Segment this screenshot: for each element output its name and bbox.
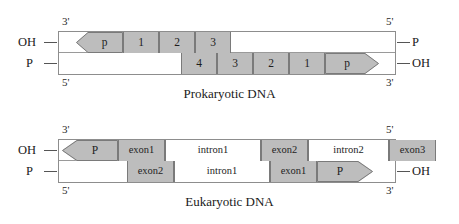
segment-exon-exon2: exon2 <box>261 140 308 161</box>
segment-label: p <box>102 37 108 49</box>
segment-label: 1 <box>138 37 144 49</box>
prokaryotic-left-top-tick <box>44 42 57 43</box>
eukaryotic-left-bottom-tick <box>44 171 57 172</box>
prokaryotic-bottom-strand: 4321p <box>59 53 395 74</box>
segment-gene-1: 1 <box>289 53 325 74</box>
segment-label: 2 <box>174 37 180 49</box>
segment-label: 3 <box>232 58 238 70</box>
segment-exon-exon3: exon3 <box>389 140 436 161</box>
segment-exon-exon1: exon1 <box>270 161 317 182</box>
eukaryotic-left-top-terminal: OH <box>18 143 36 158</box>
segment-label: exon3 <box>400 145 426 156</box>
segment-label: intron1 <box>198 145 228 156</box>
eukaryotic-duplex: Pexon1intron1exon2intron2exon3 exon2intr… <box>58 139 396 183</box>
segment-gene-2: 2 <box>159 32 195 53</box>
prokaryotic-top-right-polarity: 5' <box>386 15 393 27</box>
eukaryotic-dna-figure: 3' 5' 5' 3' OH P P OH Pexon1intron1exon2… <box>0 110 459 222</box>
prokaryotic-top-strand: p123 <box>59 32 395 53</box>
segment-exon-exon1: exon1 <box>118 140 165 161</box>
segment-label: 4 <box>196 58 202 70</box>
segment-gene-4: 4 <box>181 53 217 74</box>
segment-label: exon2 <box>272 145 298 156</box>
segment-label: intron1 <box>207 166 237 177</box>
eukaryotic-top-strand: Pexon1intron1exon2intron2exon3 <box>59 140 395 161</box>
eukaryotic-bottom-strand: exon2intron1exon1P <box>59 161 395 182</box>
segment-label: 1 <box>304 58 310 70</box>
eukaryotic-right-bottom-tick <box>397 171 410 172</box>
segment-label: p <box>344 58 350 70</box>
eukaryotic-top-left-polarity: 3' <box>62 123 69 135</box>
prokaryotic-left-bottom-tick <box>44 63 57 64</box>
segment-label: P <box>337 166 343 178</box>
segment-label: exon2 <box>138 166 164 177</box>
segment-gene-3: 3 <box>217 53 253 74</box>
prokaryotic-duplex: p123 4321p <box>58 31 396 75</box>
eukaryotic-right-bottom-terminal: OH <box>412 164 430 179</box>
eukaryotic-left-bottom-terminal: P <box>26 164 33 179</box>
segment-label: P <box>92 145 98 157</box>
segment-intron-intron1: intron1 <box>165 140 261 161</box>
segment-gene-1: 1 <box>123 32 159 53</box>
segment-intron-intron2: intron2 <box>308 140 389 161</box>
eukaryotic-left-top-tick <box>44 150 57 151</box>
segment-gene-3: 3 <box>195 32 231 53</box>
segment-label: intron2 <box>333 145 363 156</box>
prokaryotic-right-top-tick <box>397 42 410 43</box>
segment-intron-intron1: intron1 <box>174 161 270 182</box>
segment-promoter-left-p: p <box>76 32 123 53</box>
segment-promoter-right-p: P <box>317 161 373 182</box>
eukaryotic-top-right-polarity: 5' <box>386 123 393 135</box>
segment-label: 3 <box>210 37 216 49</box>
segment-exon-exon2: exon2 <box>127 161 174 182</box>
prokaryotic-right-bottom-tick <box>397 63 410 64</box>
prokaryotic-left-top-terminal: OH <box>18 35 36 50</box>
prokaryotic-right-top-terminal: P <box>412 35 419 50</box>
prokaryotic-right-bottom-terminal: OH <box>412 56 430 71</box>
prokaryotic-left-bottom-terminal: P <box>26 56 33 71</box>
segment-label: exon1 <box>281 166 307 177</box>
segment-gene-2: 2 <box>253 53 289 74</box>
segment-label: 2 <box>268 58 274 70</box>
segment-promoter-right-p: p <box>325 53 379 74</box>
prokaryotic-top-left-polarity: 3' <box>62 15 69 27</box>
segment-label: exon1 <box>129 145 155 156</box>
eukaryotic-caption: Eukaryotic DNA <box>0 194 459 210</box>
segment-promoter-left-p: P <box>62 140 118 161</box>
prokaryotic-dna-figure: 3' 5' 5' 3' OH P P OH p123 4321p Prokary… <box>0 0 459 112</box>
prokaryotic-caption: Prokaryotic DNA <box>0 86 459 102</box>
